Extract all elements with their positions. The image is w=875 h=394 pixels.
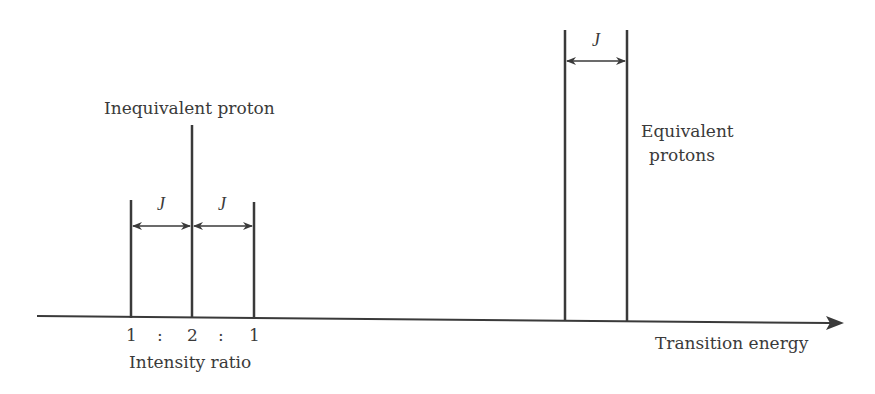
ratio-value-1: 1 <box>126 325 137 345</box>
equivalent-label-line1: Equivalent <box>641 121 734 141</box>
ratio-value-3: 1 <box>249 325 260 345</box>
equivalent-lines <box>565 30 627 322</box>
intensity-ratio-caption: Intensity ratio <box>129 352 251 372</box>
coupling-j-label-2: J <box>218 194 226 215</box>
inequivalent-proton-label: Inequivalent proton <box>104 98 275 118</box>
ratio-separator-1: : <box>157 325 163 345</box>
coupling-j-label-3: J <box>592 30 600 51</box>
coupling-j-label-1: J <box>157 194 165 215</box>
equivalent-label-line2: protons <box>649 145 715 165</box>
ratio-separator-2: : <box>218 325 224 345</box>
triplet-lines <box>131 125 254 319</box>
transition-energy-axis-label: Transition energy <box>655 333 808 353</box>
nmr-splitting-diagram: Inequivalent proton J J J Equivalent pro… <box>0 0 875 394</box>
ratio-value-2: 2 <box>187 325 198 345</box>
